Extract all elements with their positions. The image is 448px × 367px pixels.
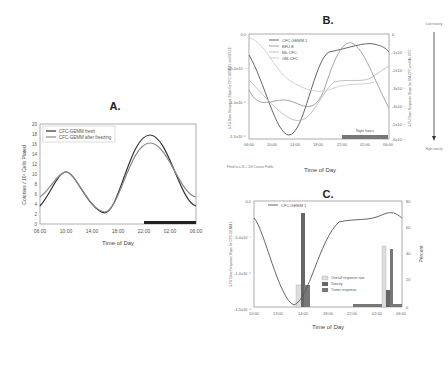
svg-text:06:00: 06:00 [396,311,407,316]
svg-text:02:00: 02:00 [164,228,177,234]
svg-text:0: 0 [392,32,395,37]
panel-a-ylabel: Colonies / 10⁵ Cells Plated [21,145,27,205]
svg-text:BFU-E: BFU-E [282,44,294,49]
panel-b: B. 0.0 -5.0x10⁻⁷ -1.0x10⁻⁶ -1.5x10⁻⁶ 0 -… [224,0,448,180]
svg-text:CFC-GEMM 1: CFC-GEMM 1 [282,38,308,43]
night-bar [144,221,196,224]
svg-text:02:00: 02:00 [360,142,371,147]
svg-text:0.0: 0.0 [240,32,246,37]
svg-text:18:00: 18:00 [313,142,324,147]
svg-text:Percent: Percent [418,245,424,263]
svg-text:-4x10⁻⁷: -4x10⁻⁷ [392,104,406,109]
svg-text:Time of Day: Time of Day [304,167,336,173]
svg-text:16: 16 [32,142,38,147]
svg-text:20: 20 [406,277,411,282]
svg-text:14:00: 14:00 [86,228,99,234]
svg-text:-1.5x10⁻⁶: -1.5x10⁻⁶ [229,134,246,139]
svg-text:10:00: 10:00 [267,142,278,147]
svg-text:-5x10⁻⁷: -5x10⁻⁷ [392,122,406,127]
series-fresh [40,135,196,213]
svg-text:Fitted to a 24 + 12h Cosinor P: Fitted to a 24 + 12h Cosinor Profile [227,165,274,169]
svg-text:20: 20 [32,122,38,127]
svg-text:Tumor response: Tumor response [331,288,356,292]
svg-text:4: 4 [34,202,37,207]
svg-text:06:00: 06:00 [190,228,203,234]
svg-text:-2x10⁻⁷: -2x10⁻⁷ [392,68,406,73]
panel-a-xticks: 06:00 10:00 14:00 18:00 22:00 02:00 06:0… [34,228,203,234]
svg-text:0: 0 [34,222,37,227]
svg-text:0: 0 [406,305,409,310]
svg-text:10:00: 10:00 [249,311,260,316]
svg-text:CFC-GEMM 1: CFC-GEMM 1 [281,203,307,208]
svg-text:2: 2 [34,212,37,217]
svg-text:Time of Day: Time of Day [312,324,344,330]
svg-text:06:00: 06:00 [244,142,255,147]
panel-a: A. 0 2 4 6 8 10 12 14 16 18 20 06:00 10:… [0,100,224,290]
svg-text:22:00: 22:00 [337,142,348,147]
svg-text:6: 6 [34,192,37,197]
panel-b-title: B. [318,14,338,26]
svg-text:18: 18 [32,132,38,137]
panel-c-title: C. [318,188,338,200]
svg-text:22:00: 22:00 [138,228,151,234]
panel-c: C. 0.0 -5.0x10⁻⁷ -1.0x10⁻⁶ -1.5x10⁻⁶ 80 … [224,180,448,367]
svg-text:GM-CFC: GM-CFC [282,56,298,61]
svg-text:5-FU Dose Response Slope for G: 5-FU Dose Response Slope for GM-CFC and … [408,49,412,127]
panel-a-title: A. [105,100,125,112]
svg-text:10:00: 10:00 [60,228,73,234]
svg-text:14: 14 [32,152,38,157]
svg-text:Mk-CFC: Mk-CFC [282,50,297,55]
svg-text:10: 10 [32,172,38,177]
svg-text:80: 80 [406,199,411,204]
svg-text:-3x10⁻⁷: -3x10⁻⁷ [392,86,406,91]
panel-a-yticks: 0 2 4 6 8 10 12 14 16 18 20 [32,122,38,227]
svg-text:0.0: 0.0 [245,199,251,204]
svg-text:Toxicity: Toxicity [331,282,343,286]
svg-text:High toxicity: High toxicity [425,147,443,151]
svg-text:-1.0x10⁻⁶: -1.0x10⁻⁶ [234,271,251,276]
svg-text:-6x10⁻⁷: -6x10⁻⁷ [392,137,406,142]
svg-text:40: 40 [406,251,411,256]
svg-text:Night hours: Night hours [356,129,374,133]
panel-b-chart: 0.0 -5.0x10⁻⁷ -1.0x10⁻⁶ -1.5x10⁻⁶ 0 -1x1… [224,0,448,180]
panel-a-xlabel: Time of Day [102,240,134,246]
svg-text:12: 12 [32,162,38,167]
svg-text:18:00: 18:00 [323,311,334,316]
svg-text:60: 60 [406,225,411,230]
svg-text:18:00: 18:00 [112,228,125,234]
panel-c-chart: 0.0 -5.0x10⁻⁷ -1.0x10⁻⁶ -1.5x10⁻⁶ 80 60 … [224,180,448,367]
svg-text:22:00: 22:00 [347,311,358,316]
svg-text:5-FU Dose Response Slope for C: 5-FU Dose Response Slope for CFC-GEMM 1 … [228,47,232,129]
svg-text:8: 8 [34,182,37,187]
svg-text:-5.0x10⁻⁷: -5.0x10⁻⁷ [234,235,251,240]
svg-text:CFC-GEMM fresh: CFC-GEMM fresh [59,129,95,134]
svg-text:Low toxicity: Low toxicity [426,22,443,26]
svg-text:06:00: 06:00 [383,142,394,147]
svg-text:5-FU Dose Response Slope for C: 5-FU Dose Response Slope for CFC-GEMM 1 [229,221,233,287]
panel-a-chart: 0 2 4 6 8 10 12 14 16 18 20 06:00 10:00 … [0,100,224,290]
series-frozen [40,143,196,212]
svg-text:CFC-GEMM after freezing: CFC-GEMM after freezing [59,135,112,140]
svg-text:Overall response rate: Overall response rate [331,276,365,280]
svg-text:-1x10⁻⁷: -1x10⁻⁷ [392,50,406,55]
svg-text:06:00: 06:00 [34,228,47,234]
svg-text:02:00: 02:00 [372,311,383,316]
svg-text:13:00: 13:00 [273,311,284,316]
svg-text:14:00: 14:00 [290,142,301,147]
svg-text:14:00: 14:00 [298,311,309,316]
